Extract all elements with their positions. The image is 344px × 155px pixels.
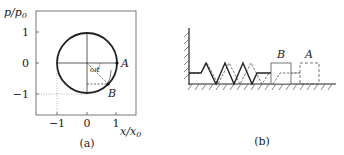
figure: A B ωt 1 0 −1 −1 0 1 p/p0 x/x0 (a) (0, 0, 344, 155)
block-b (271, 63, 291, 84)
x-tick-minus-1: −1 (49, 117, 65, 130)
y-tick-0: 0 (22, 57, 29, 70)
spring-compressed (189, 63, 271, 84)
block-a (300, 63, 319, 84)
point-a-label: A (120, 57, 129, 70)
block-a-label: A (304, 48, 313, 61)
panel-a: A B ωt 1 0 −1 −1 0 1 p/p0 x/x0 (a) (4, 6, 141, 150)
caption-a: (a) (79, 137, 94, 150)
point-b-label: B (107, 87, 116, 100)
wall-hatching (184, 32, 189, 79)
x-tick-0: 0 (84, 117, 91, 130)
floor-hatching (188, 84, 332, 90)
caption-b: (b) (254, 135, 270, 148)
y-tick-minus-1: −1 (13, 88, 29, 101)
y-tick-1: 1 (22, 26, 29, 39)
point-a (115, 61, 118, 64)
angle-label: ωt (90, 65, 101, 74)
y-axis-label: p/p0 (4, 6, 27, 20)
point-b (106, 82, 109, 85)
x-tick-1: 1 (113, 117, 120, 130)
panel-b: B A (b) (184, 28, 336, 148)
block-b-label: B (276, 48, 285, 61)
x-axis-label: x/x0 (120, 125, 141, 139)
